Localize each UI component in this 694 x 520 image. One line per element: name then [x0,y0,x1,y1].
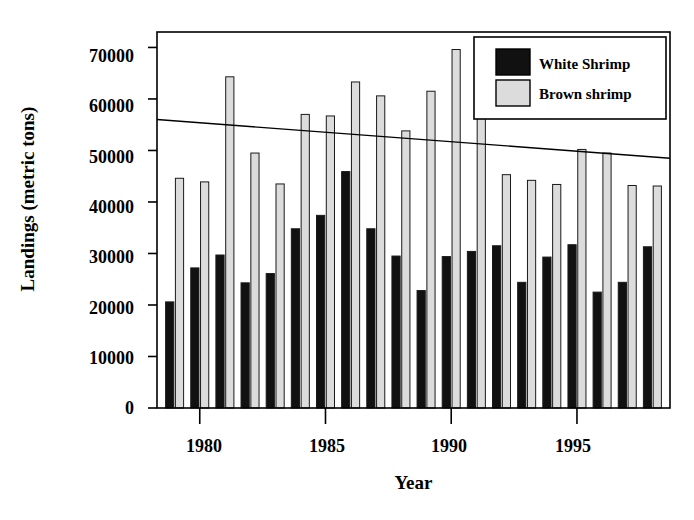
bar-white-shrimp-1980 [191,268,199,408]
bar-brown-shrimp-1997 [628,185,636,408]
bar-brown-shrimp-1992 [502,175,510,408]
bar-brown-shrimp-1988 [402,131,410,408]
bar-white-shrimp-1994 [543,257,551,408]
bar-brown-shrimp-1998 [653,186,661,408]
bar-white-shrimp-1991 [467,251,475,408]
bar-white-shrimp-1979 [166,302,174,408]
bar-brown-shrimp-1996 [603,153,611,408]
legend-swatch-brown-shrimp [496,80,530,106]
bar-brown-shrimp-1993 [527,180,535,408]
bar-brown-shrimp-1980 [201,182,209,408]
bar-brown-shrimp-1995 [578,149,586,408]
legend-box [474,37,666,119]
bar-brown-shrimp-1982 [251,153,259,408]
bar-brown-shrimp-1983 [276,184,284,408]
bar-white-shrimp-1985 [316,215,324,408]
bar-brown-shrimp-1989 [427,91,435,408]
bar-brown-shrimp-1985 [326,116,334,408]
bar-white-shrimp-1992 [493,246,501,408]
bar-white-shrimp-1989 [417,291,425,408]
legend-label-brown-shrimp: Brown shrimp [539,86,632,103]
bar-white-shrimp-1986 [342,172,350,408]
bar-white-shrimp-1996 [593,292,601,408]
bar-brown-shrimp-1994 [553,184,561,408]
bar-brown-shrimp-1990 [452,50,460,408]
bar-brown-shrimp-1986 [351,82,359,408]
bar-white-shrimp-1997 [618,282,626,408]
bar-white-shrimp-1993 [518,282,526,408]
bar-brown-shrimp-1987 [377,96,385,408]
plot-area [0,0,694,520]
bar-brown-shrimp-1979 [175,178,183,408]
bar-brown-shrimp-1981 [226,77,234,408]
legend-swatch-white-shrimp [496,49,530,75]
bar-white-shrimp-1990 [442,257,450,408]
bar-white-shrimp-1995 [568,245,576,408]
bar-white-shrimp-1981 [216,255,224,408]
bar-white-shrimp-1982 [241,283,249,408]
bar-white-shrimp-1998 [643,247,651,408]
legend-label-white-shrimp: White Shrimp [539,56,630,73]
bar-white-shrimp-1988 [392,256,400,408]
bar-white-shrimp-1983 [266,274,274,408]
bar-white-shrimp-1984 [291,229,299,408]
bar-white-shrimp-1987 [367,229,375,408]
bar-brown-shrimp-1984 [301,114,309,408]
bar-brown-shrimp-1991 [477,111,485,408]
chart-figure: Landings (metric tons) 70000 60000 50000… [0,0,694,520]
